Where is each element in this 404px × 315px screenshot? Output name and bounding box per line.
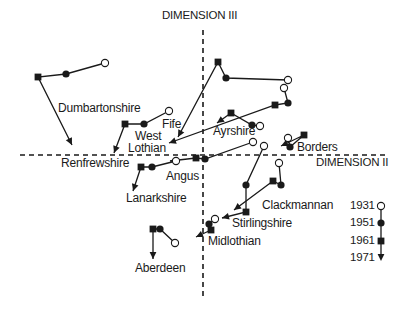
region-label: Borders xyxy=(297,141,338,153)
open-circle-marker xyxy=(101,59,108,66)
filled-circle-marker xyxy=(377,219,384,226)
filled-circle-marker xyxy=(140,120,147,127)
filled-circle-marker xyxy=(62,70,69,77)
filled-square-marker xyxy=(138,164,145,171)
open-circle-marker xyxy=(377,202,384,209)
open-circle-marker xyxy=(172,157,179,164)
region-label: Stirlingshire xyxy=(232,217,292,229)
region-label: Angus xyxy=(166,170,199,182)
filled-circle-marker xyxy=(277,181,284,188)
dimension-ii-label: DIMENSION II xyxy=(316,157,388,169)
trajectory-angus xyxy=(170,138,257,163)
legend-year-1931: 1931 xyxy=(350,200,375,212)
filled-square-marker xyxy=(243,209,250,216)
filled-square-marker xyxy=(301,132,308,139)
arrowhead-marker xyxy=(169,137,177,143)
filled-square-marker xyxy=(35,74,42,81)
region-label: Aberdeen xyxy=(135,262,185,274)
filled-square-marker xyxy=(193,155,200,162)
filled-square-marker xyxy=(122,121,129,128)
open-circle-marker xyxy=(249,138,256,145)
filled-square-marker xyxy=(272,102,279,109)
arrowhead-marker xyxy=(132,183,138,191)
arrowhead-marker xyxy=(378,254,385,261)
region-label: Midlothian xyxy=(208,235,261,247)
filled-circle-marker xyxy=(148,163,155,170)
arrowhead-marker xyxy=(222,213,230,220)
dimension-iii-label: DIMENSION III xyxy=(162,10,237,22)
arrowhead-marker xyxy=(234,203,242,210)
legend-year-1971: 1971 xyxy=(350,252,375,264)
trajectory-stirlingshire xyxy=(222,142,268,219)
region-label: Lanarkshire xyxy=(126,192,187,204)
open-circle-marker xyxy=(256,122,263,129)
filled-square-marker xyxy=(208,227,215,234)
region-label: Clackmannan xyxy=(262,199,333,211)
region-label: Fife xyxy=(162,118,181,130)
filled-circle-marker xyxy=(156,225,163,232)
legend-year-1961: 1961 xyxy=(350,235,375,247)
region-label: Renfrewshire xyxy=(61,157,129,169)
filled-square-marker xyxy=(228,110,235,117)
trajectory-line xyxy=(170,142,253,161)
open-circle-marker xyxy=(165,107,172,114)
open-circle-marker xyxy=(275,159,282,166)
filled-square-marker xyxy=(150,226,157,233)
legend-graphic xyxy=(377,202,384,261)
filled-square-marker xyxy=(215,59,222,66)
open-circle-marker xyxy=(171,239,178,246)
filled-circle-marker xyxy=(205,220,212,227)
legend-year-1951: 1951 xyxy=(350,217,375,229)
trajectory-aberdeen xyxy=(150,225,179,259)
open-circle-marker xyxy=(260,142,267,149)
trajectory-line xyxy=(222,146,264,218)
dimension-plot: DIMENSION III DIMENSION II Dumbartonshir… xyxy=(0,0,404,315)
arrowhead-marker xyxy=(217,116,225,123)
open-circle-marker xyxy=(211,215,218,222)
filled-circle-marker xyxy=(242,181,249,188)
filled-square-marker xyxy=(270,178,277,185)
filled-circle-marker xyxy=(222,74,229,81)
region-label: Lothian xyxy=(128,142,166,154)
arrowhead-marker xyxy=(150,252,157,259)
filled-square-marker xyxy=(378,238,385,245)
region-label: Dumbartonshire xyxy=(58,102,141,114)
filled-circle-marker xyxy=(284,99,291,106)
region-label: Ayrshire xyxy=(213,125,255,137)
open-circle-marker xyxy=(284,76,291,83)
open-circle-marker xyxy=(280,84,287,91)
filled-circle-marker xyxy=(201,155,208,162)
